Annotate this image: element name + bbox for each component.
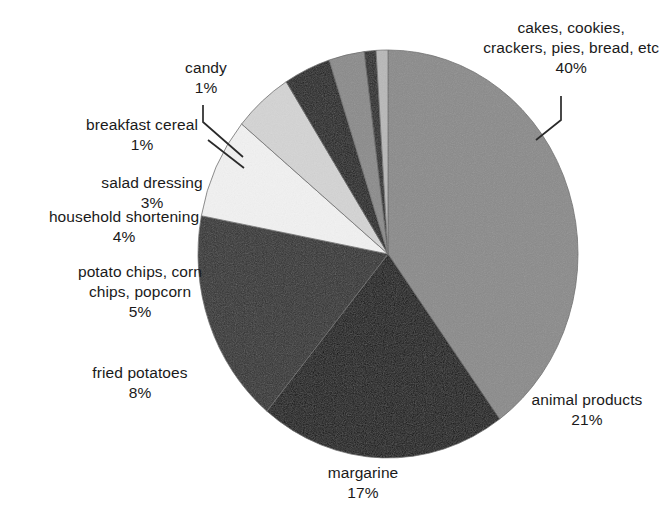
slice-label-animal-products: animal products 21%: [512, 390, 662, 430]
slice-label-fried-potatoes-line1: fried potatoes: [50, 363, 230, 383]
slice-label-animal-products-line1: animal products: [512, 390, 662, 410]
slice-label-candy: candy 1%: [160, 58, 252, 98]
slice-label-breakfast-cereal: breakfast cereal 1%: [52, 115, 232, 155]
slice-label-breakfast-cereal-line1: breakfast cereal: [52, 115, 232, 135]
slice-value-margarine: 17%: [288, 483, 438, 503]
slice-label-candy-line1: candy: [160, 58, 252, 78]
slice-label-potato-chips-line2: chips, popcorn: [50, 282, 230, 302]
slice-label-cakes-line1: cakes, cookies,: [483, 18, 659, 38]
slice-value-potato-chips: 5%: [50, 302, 230, 322]
slice-value-animal-products: 21%: [512, 410, 662, 430]
slice-value-candy: 1%: [160, 78, 252, 98]
slice-label-fried-potatoes: fried potatoes 8%: [50, 363, 230, 403]
slice-label-salad-dressing-line1: salad dressing: [72, 173, 232, 193]
slice-label-margarine: margarine 17%: [288, 463, 438, 503]
slice-value-fried-potatoes: 8%: [50, 383, 230, 403]
slice-label-cakes: cakes, cookies, crackers, pies, bread, e…: [483, 18, 659, 77]
pie-chart-figure: cakes, cookies, crackers, pies, bread, e…: [0, 0, 669, 523]
slice-value-household-shortening: 4%: [16, 227, 232, 247]
slice-value-breakfast-cereal: 1%: [52, 135, 232, 155]
slice-value-cakes: 40%: [483, 58, 659, 78]
slice-label-potato-chips-line1: potato chips, corn: [50, 262, 230, 282]
slice-label-margarine-line1: margarine: [288, 463, 438, 483]
slice-label-cakes-line2: crackers, pies, bread, etc: [483, 38, 659, 58]
slice-label-potato-chips: potato chips, corn chips, popcorn 5%: [50, 262, 230, 321]
slice-label-household-shortening: household shortening 4%: [16, 207, 232, 247]
slice-label-household-shortening-line1: household shortening: [16, 207, 232, 227]
